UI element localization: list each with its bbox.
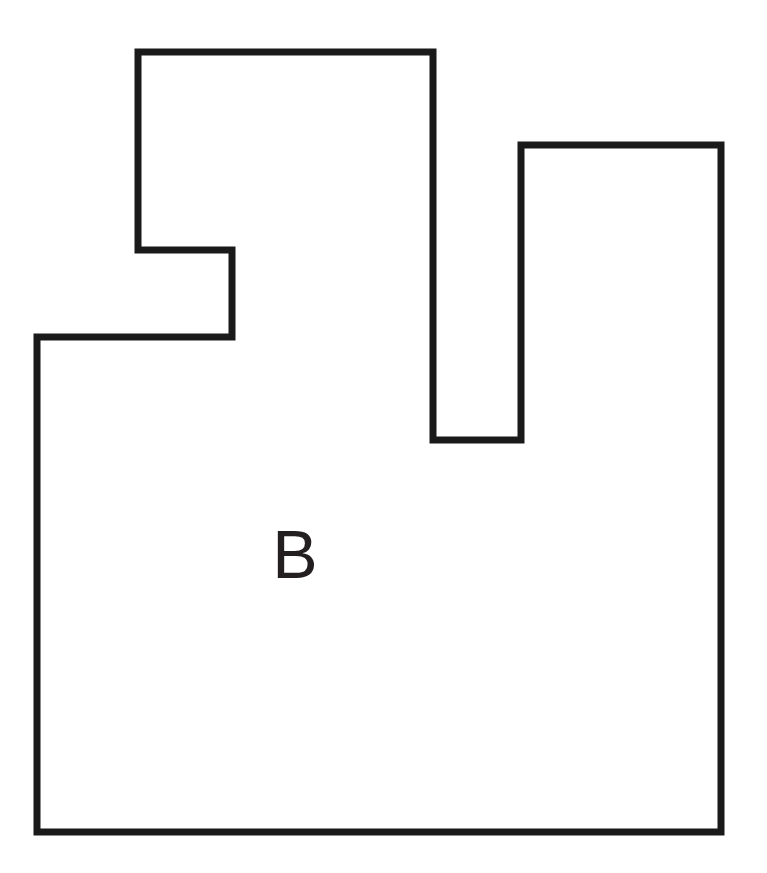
figure-canvas: B: [0, 0, 767, 873]
shape-label-b: B: [272, 516, 317, 592]
shape-diagram: B: [0, 0, 767, 873]
polygon-outline-b: [37, 52, 721, 832]
